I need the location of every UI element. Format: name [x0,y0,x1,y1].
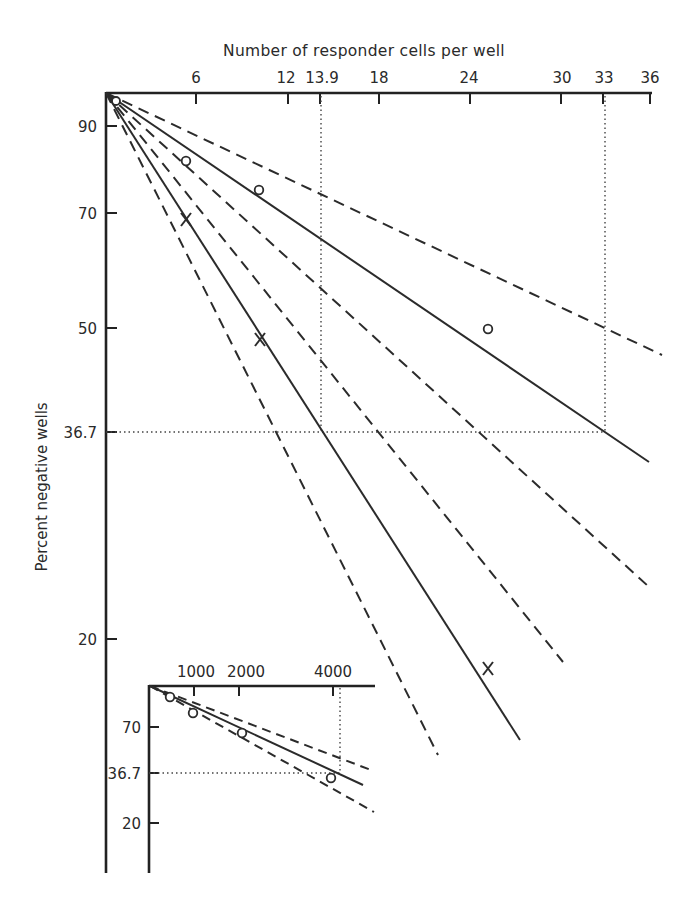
dashed-line-3 [106,93,648,586]
y-tick-label: 20 [78,631,97,649]
x-axis-title: Number of responder cells per well [223,42,505,60]
circle-marker [112,97,120,105]
cross-marker [181,213,191,226]
x-tick-label: 30 [552,69,571,87]
cross-fit-line [106,93,520,740]
y-tick-label: 50 [78,320,97,338]
inset-circle-marker [327,774,336,783]
inset-fit-line [150,686,363,785]
x-tick-label: 24 [459,69,478,87]
x-tick-label: 18 [369,69,388,87]
x-tick-label: 12 [276,69,295,87]
x-tick-label: 6 [191,69,201,87]
inset-lower-dashed-line [150,686,374,812]
circle-marker [182,157,191,166]
inset-upper-dashed-line [150,686,371,770]
x-tick-label: 36 [640,69,659,87]
circle-marker [484,325,493,334]
lower-dashed-line [106,93,438,755]
x-ticks [196,93,650,104]
inset-x-tick-label: 1000 [177,663,215,681]
limiting-dilution-chart: Number of responder cells per well 6 12 … [0,0,697,921]
inset-y-tick-label: 70 [122,719,141,737]
y-tick-labels: 90 70 50 36.7 20 [64,118,97,649]
circle-markers [112,97,492,333]
inset-chart: 1000 2000 4000 70 36.7 20 [108,663,375,873]
circle-fit-line [106,93,649,462]
y-tick-label: 36.7 [64,424,97,442]
x-tick-label: 13.9 [305,69,338,87]
y-tick-label: 90 [78,118,97,136]
series-lines [106,93,662,755]
inset-x-tick-label: 2000 [227,663,265,681]
cross-marker [483,662,493,675]
x-tick-label: 33 [594,69,613,87]
dashed-line-4 [106,93,563,662]
inset-circle-marker [166,693,175,702]
y-axis-title: Percent negative wells [33,402,51,571]
main-axes [106,92,652,873]
y-tick-label: 70 [78,205,97,223]
inset-x-tick-label: 4000 [314,663,352,681]
y-ticks [106,126,117,639]
inset-y-tick-label: 20 [122,815,141,833]
inset-y-tick-label: 36.7 [108,765,141,783]
inset-circle-marker [238,729,247,738]
x-tick-labels: 6 12 13.9 18 24 30 33 36 [191,69,659,87]
circle-marker [255,186,264,195]
inset-circle-marker [189,709,198,718]
